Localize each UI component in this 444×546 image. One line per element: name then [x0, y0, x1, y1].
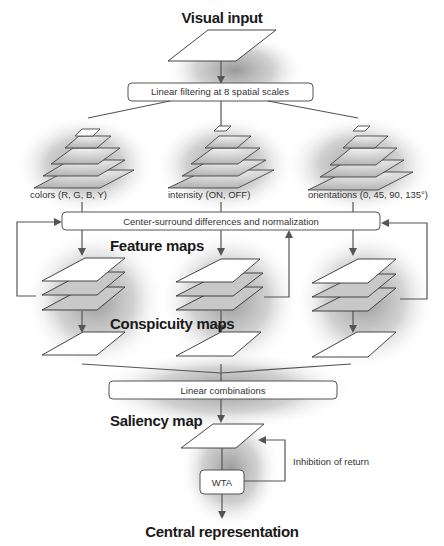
title-feature-maps: Feature maps	[110, 237, 204, 254]
wta-label: WTA	[212, 477, 233, 488]
channel-label-orientations: orientations (0, 45, 90, 135°)	[308, 189, 428, 200]
title-conspicuity-maps: Conspicuity maps	[110, 315, 234, 332]
linear-combinations-label: Linear combinations	[180, 385, 265, 396]
center-surround-label: Center-surround differences and normaliz…	[123, 216, 319, 227]
inhibition-of-return-label: Inhibition of return	[293, 456, 369, 467]
title-saliency-map: Saliency map	[110, 412, 202, 429]
channel-label-colors: colors (R, G, B, Y)	[30, 189, 107, 200]
channel-label-intensity: intensity (ON, OFF)	[168, 189, 250, 200]
linear-filtering-label: Linear filtering at 8 spatial scales	[151, 86, 289, 97]
title-central-representation: Central representation	[145, 523, 299, 540]
saliency-model-diagram: Visual input Linear filtering at 8 spati…	[0, 0, 444, 546]
title-visual-input: Visual input	[181, 9, 262, 26]
